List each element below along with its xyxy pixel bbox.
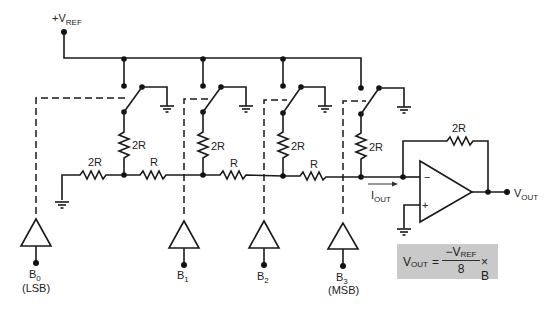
formula-denominator: 8	[442, 261, 480, 276]
switch-b0	[121, 59, 174, 115]
bit-buffer-b1: B1	[169, 221, 199, 284]
series-resistor-2: R	[283, 158, 361, 180]
bit-input-dot	[340, 263, 346, 269]
iout-label: IOUT	[371, 189, 391, 204]
current-arrow-icon	[368, 182, 398, 187]
output-formula-box: VOUT = −VREF 8 × B	[397, 244, 498, 279]
switch-blade	[124, 87, 142, 112]
formula-numerator: −VREF	[442, 245, 480, 261]
ground-icon	[239, 106, 253, 112]
vref-label: +VREF	[52, 12, 82, 27]
ladder-node-dot	[121, 172, 127, 178]
bit-input-dot	[181, 262, 187, 268]
ground-icon	[397, 107, 411, 113]
vout-terminal-dot	[504, 189, 510, 195]
formula-times-b: × B	[481, 255, 498, 283]
svg-text:R: R	[310, 158, 318, 170]
noninverting-input-symbol: +	[422, 199, 428, 211]
ground-icon	[318, 106, 332, 112]
lsb-label: (LSB)	[22, 282, 50, 294]
feedback-resistor: 2R	[403, 122, 488, 192]
control-link-b0	[36, 98, 129, 214]
formula-fraction: −VREF 8	[442, 245, 480, 276]
svg-text:R: R	[230, 157, 238, 169]
bit-label-b2: B2	[257, 270, 269, 285]
switch-b2	[280, 59, 332, 116]
msb-label: (MSB)	[328, 284, 359, 296]
svg-text:2R: 2R	[211, 140, 225, 152]
svg-text:2R: 2R	[369, 141, 383, 153]
bit-buffer-b0: B0 (LSB)	[21, 219, 51, 294]
ladder-node-dot	[280, 173, 286, 179]
dac-circuit-diagram: +VREF	[0, 0, 553, 311]
inverting-input-symbol: −	[424, 171, 430, 183]
shunt-resistor-1: 2R	[198, 112, 225, 175]
svg-text:2R: 2R	[132, 139, 146, 151]
vout-label: VOUT	[514, 187, 538, 202]
bit-input-dot	[261, 262, 267, 268]
formula-equals: =	[432, 255, 439, 269]
shunt-resistor-0: 2R	[119, 112, 146, 175]
switch-b3	[358, 85, 411, 117]
bit-buffer-b3: B3 (MSB)	[328, 223, 359, 296]
ground-icon	[397, 229, 411, 235]
series-resistor-1: R	[203, 157, 283, 179]
bit-label-b1: B1	[177, 269, 189, 284]
svg-text:2R: 2R	[452, 122, 466, 134]
svg-text:2R: 2R	[88, 156, 102, 168]
termination-resistor: 2R	[55, 156, 124, 208]
formula-lhs: VOUT	[403, 255, 428, 269]
shunt-resistor-3: 2R	[356, 114, 383, 177]
svg-text:R: R	[150, 156, 158, 168]
bit-buffer-b2: B2	[249, 221, 279, 285]
series-resistor-0: R	[124, 156, 203, 179]
bit-label-b0: B0	[29, 268, 41, 283]
ladder-node-dot	[200, 172, 206, 178]
switch-b1	[200, 59, 253, 115]
shunt-resistor-2: 2R	[278, 113, 305, 176]
bit-input-dot	[33, 260, 39, 266]
ground-icon	[160, 106, 174, 112]
vref-bus	[64, 32, 361, 88]
svg-text:2R: 2R	[291, 140, 305, 152]
ground-icon	[55, 202, 69, 208]
